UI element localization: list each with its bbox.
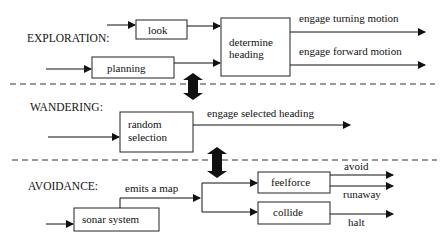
exploration-label: EXPLORATION: xyxy=(27,32,109,44)
determine-heading-line1: determine xyxy=(229,36,273,48)
runaway-label: runaway xyxy=(343,188,381,200)
to-collide-arrow xyxy=(202,205,257,212)
double-arrow-icon xyxy=(183,73,203,100)
avoidance-label: AVOIDANCE: xyxy=(28,180,98,192)
look-box-label: look xyxy=(148,24,168,36)
halt-label: halt xyxy=(348,216,365,228)
to-feelforce-arrow xyxy=(202,183,257,205)
planning-box-label: planning xyxy=(107,62,146,74)
emits-map-label: emits a map xyxy=(125,182,179,194)
wandering-label: WANDERING: xyxy=(30,101,103,113)
emits-map-arrow xyxy=(120,198,200,208)
sonar-system-label: sonar system xyxy=(82,213,140,225)
selected-heading-label: engage selected heading xyxy=(207,107,314,119)
avoid-label: avoid xyxy=(344,160,369,172)
random-selection-line2: selection xyxy=(128,131,168,143)
random-selection-line1: random xyxy=(128,118,162,130)
double-arrow-icon xyxy=(207,147,227,178)
behavior-diagram: EXPLORATION: look planning determine hea… xyxy=(0,0,445,245)
collide-label: collide xyxy=(273,206,303,218)
determine-heading-line2: heading xyxy=(229,48,264,60)
turning-motion-label: engage turning motion xyxy=(299,12,399,24)
forward-motion-label: engage forward motion xyxy=(299,45,402,57)
feelforce-label: feelforce xyxy=(271,176,310,188)
